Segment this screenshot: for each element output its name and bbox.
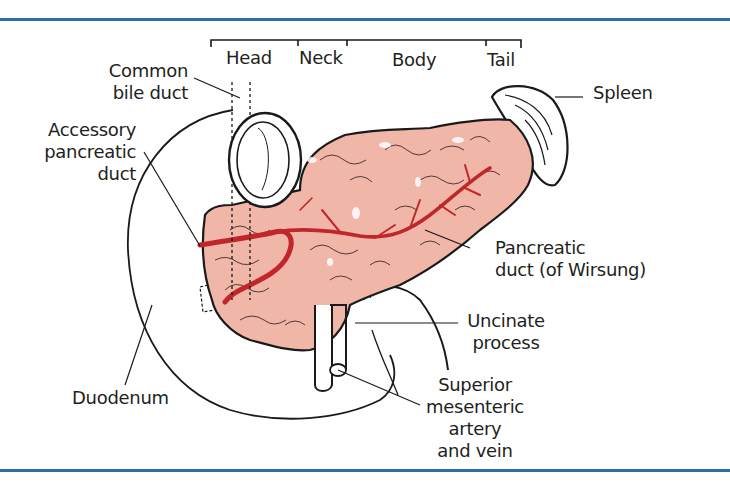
label-accessory-pancreatic-duct: Accessory pancreatic duct [30, 119, 136, 185]
label-sm-line2: mesenteric [425, 396, 525, 418]
label-uncinate-line1: Uncinate [465, 310, 547, 332]
region-label-body: Body [392, 49, 436, 71]
label-uncinate-process: Uncinate process [465, 310, 547, 354]
region-label-head: Head [226, 47, 272, 69]
label-sm-line4: and vein [425, 440, 525, 462]
label-uncinate-line2: process [465, 332, 547, 354]
duodenal-ring [229, 113, 301, 207]
label-sm-line3: artery [425, 418, 525, 440]
label-common-bile-duct-line1: Common [100, 60, 188, 82]
label-duodenum: Duodenum [72, 387, 169, 409]
label-accessory-line1: Accessory [30, 119, 136, 141]
region-label-tail: Tail [487, 49, 515, 71]
label-accessory-line2: pancreatic [30, 141, 136, 163]
label-pancreatic-duct-line1: Pancreatic [495, 237, 646, 259]
label-accessory-line3: duct [30, 163, 136, 185]
label-spleen: Spleen [593, 82, 653, 104]
label-superior-mesenteric: Superior mesenteric artery and vein [425, 374, 525, 462]
label-common-bile-duct-line2: bile duct [100, 82, 188, 104]
label-sm-line1: Superior [425, 374, 525, 396]
label-pancreatic-duct-line2: duct (of Wirsung) [495, 259, 646, 281]
label-common-bile-duct: Common bile duct [100, 60, 188, 104]
label-pancreatic-duct: Pancreatic duct (of Wirsung) [495, 237, 646, 281]
region-label-neck: Neck [299, 47, 343, 69]
